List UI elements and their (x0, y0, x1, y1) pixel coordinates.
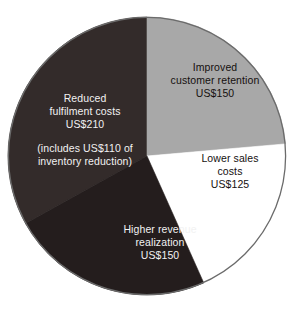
pie-chart-canvas (0, 0, 299, 313)
pie-chart: Improved customer retention US$150 Lower… (0, 0, 299, 313)
pie-slice-improved-customer-retention (147, 17, 285, 156)
